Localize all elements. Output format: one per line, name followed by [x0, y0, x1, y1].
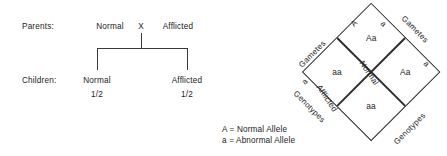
punnett-cell-right-genotype: Aa: [400, 67, 411, 77]
legend-line-normal-allele: A = Normal Allele: [222, 124, 295, 135]
punnett-square-diagram: Aa Aa aa aa Normal Afflicted Gametes A a…: [302, 3, 441, 142]
punnett-cell-left-genotype: aa: [333, 67, 343, 77]
child-left-ratio: 1/2: [91, 91, 103, 99]
parent-left-phenotype: Normal: [96, 23, 123, 31]
parents-row-label: Parents:: [22, 23, 54, 31]
parent-right-phenotype: Afflicted: [163, 23, 194, 31]
children-row-label: Children:: [22, 77, 56, 85]
cross-symbol: X: [138, 23, 144, 31]
child-left-phenotype: Normal: [83, 77, 110, 85]
pedigree-horizontal-bar: [97, 48, 187, 49]
punnett-cell-top-genotype: Aa: [366, 33, 377, 43]
child-right-ratio: 1/2: [181, 91, 193, 99]
child-right-phenotype: Afflicted: [172, 77, 203, 85]
genotypes-right-label: Genotypes: [392, 111, 427, 146]
legend-line-abnormal-allele: a = Abnormal Allele: [222, 135, 295, 146]
pedigree-drop-left: [97, 48, 98, 70]
allele-legend: A = Normal Allele a = Abnormal Allele: [222, 124, 295, 146]
pedigree-cross-stem: [141, 33, 142, 48]
pedigree-drop-right: [187, 48, 188, 70]
punnett-cell-bottom-genotype: aa: [367, 102, 377, 112]
genetics-inheritance-figure: Parents: Normal X Afflicted Children: No…: [0, 0, 447, 156]
